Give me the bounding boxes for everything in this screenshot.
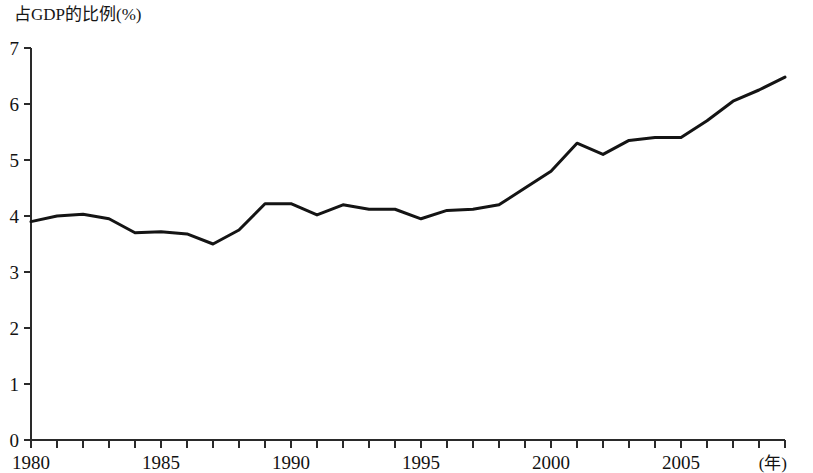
y-axis-tick-labels: 01234567 <box>10 38 20 451</box>
x-tick-label: 1995 <box>402 452 440 473</box>
y-tick-label: 6 <box>10 94 20 115</box>
y-axis-tick-marks <box>24 48 31 440</box>
x-tick-label: 1980 <box>12 452 50 473</box>
line-chart-plot: 01234567 198019851990199520002005 (年) <box>0 0 813 473</box>
y-tick-label: 5 <box>10 150 20 171</box>
x-tick-label: 2005 <box>662 452 700 473</box>
y-tick-label: 7 <box>10 38 20 59</box>
x-axis-tick-labels: 198019851990199520002005 <box>12 452 700 473</box>
x-tick-label: 1985 <box>142 452 180 473</box>
y-tick-label: 4 <box>10 206 20 227</box>
x-tick-label: 1990 <box>272 452 310 473</box>
y-tick-label: 1 <box>10 374 20 395</box>
x-tick-label: 2000 <box>532 452 570 473</box>
y-tick-label: 2 <box>10 318 20 339</box>
y-tick-label: 0 <box>10 430 20 451</box>
gdp-ratio-series-line <box>31 77 785 244</box>
x-axis-tick-marks <box>31 440 785 448</box>
y-tick-label: 3 <box>10 262 20 283</box>
chart-container: 占GDP的比例(%) 01234567 19801985199019952000… <box>0 0 813 473</box>
x-axis-unit-label: (年) <box>759 454 787 473</box>
